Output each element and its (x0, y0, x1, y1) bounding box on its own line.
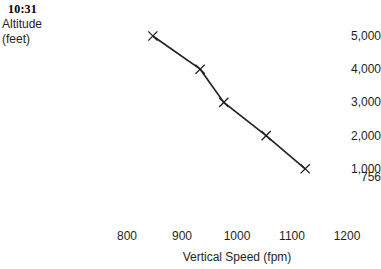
data-point-marker (196, 65, 205, 74)
data-point-marker (301, 164, 310, 173)
series-line (153, 36, 305, 169)
data-point-marker (219, 98, 228, 107)
plot-area (0, 0, 381, 269)
data-point-marker (148, 31, 157, 40)
chart-container: 10:31 Altitude (feet) 5,0004,0003,0002,0… (0, 0, 381, 269)
data-point-marker (262, 131, 271, 140)
data-series-group (148, 31, 310, 173)
